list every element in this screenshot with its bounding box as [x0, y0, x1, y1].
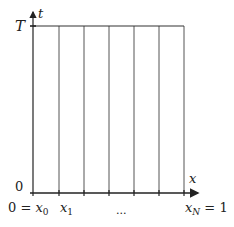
- vertical-grid-lines: [59, 26, 184, 193]
- xN-label: xN = 1: [185, 200, 228, 217]
- x0-label: 0 = x0: [8, 200, 49, 217]
- origin-label: 0: [15, 179, 23, 194]
- x1-label: x1: [60, 200, 73, 217]
- ellipsis-label: ...: [116, 204, 127, 217]
- x-axis-label: x: [189, 171, 197, 186]
- space-time-grid-diagram: t T x 0 0 = x0 x1 ... xN = 1: [0, 0, 234, 227]
- T-label: T: [15, 17, 26, 35]
- t-axis-label: t: [38, 6, 44, 21]
